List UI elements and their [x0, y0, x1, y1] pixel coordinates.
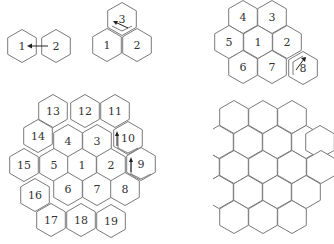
hex-label: 12: [78, 105, 92, 118]
hex-label: 9: [138, 158, 145, 171]
hex-label: 5: [51, 159, 58, 172]
hex-label: 2: [108, 159, 115, 172]
hex-cell: 11: [101, 95, 130, 128]
hex-label: 3: [269, 11, 276, 24]
hex-label: 2: [53, 40, 60, 53]
hex-label: 3: [94, 135, 101, 148]
hex-label: 19: [104, 215, 118, 228]
hex-label: 1: [104, 39, 111, 52]
panel-eight-hexes: 43512678: [215, 1, 318, 85]
hex-label: 1: [255, 36, 262, 49]
hex-cell: 19: [97, 205, 126, 238]
hex-cell: 12: [71, 95, 100, 128]
hex-label: 1: [79, 159, 86, 172]
hex-label: 18: [74, 214, 88, 227]
hex-label: 7: [94, 183, 101, 196]
hex-label: 5: [226, 36, 233, 49]
hex-label: 17: [44, 214, 58, 227]
hex-label: 1: [19, 40, 26, 53]
hex-label: 14: [31, 130, 45, 143]
hex-label: 6: [65, 183, 72, 196]
hex-cell: 1: [93, 29, 122, 62]
hex-label: 7: [269, 61, 276, 74]
hex-label: 6: [240, 61, 247, 74]
panel-hex-tiling: [191, 101, 334, 234]
hex-label: 4: [240, 11, 247, 24]
hex-label: 2: [284, 36, 291, 49]
hex-cell: 2: [123, 29, 152, 62]
hex-label: 4: [65, 135, 72, 148]
panel-nineteen-hexes: 13121114431015512916678171819: [10, 95, 156, 238]
hex-label: 8: [122, 183, 129, 196]
hex-label: 15: [17, 159, 31, 172]
hex-cell: 15: [10, 149, 39, 182]
hex-label: 11: [108, 105, 122, 118]
hex-label: 13: [46, 105, 60, 118]
hex-label: 10: [121, 132, 135, 145]
hex-label: 16: [28, 189, 42, 202]
hex-cell: 18: [67, 204, 96, 237]
panel-three-hexes: 312: [93, 3, 152, 62]
hex-label: 2: [134, 39, 141, 52]
hex-diagram: 12 312 43512678 131211144310155129166781…: [0, 0, 334, 244]
